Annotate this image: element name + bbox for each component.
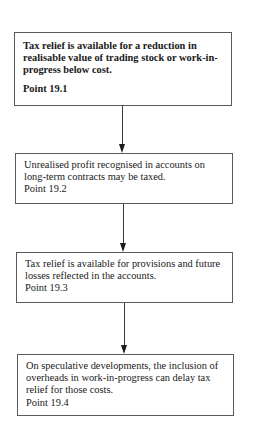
flow-step-2: Unrealised profit recognised in accounts…: [15, 153, 233, 204]
flow-step-1: Tax relief is available for a reduction …: [14, 32, 232, 106]
step-text: Unrealised profit recognised in accounts…: [24, 159, 205, 182]
step-point-reference: Point 19.4: [26, 397, 227, 409]
connector-line: [122, 106, 123, 144]
step-text: Tax relief is available for provisions a…: [25, 258, 220, 281]
step-text: On speculative developments, the inclusi…: [26, 360, 218, 395]
connector-line: [123, 204, 124, 243]
step-point-reference: Point 19.1: [23, 83, 225, 95]
step-text: Tax relief is available for a reduction …: [23, 40, 218, 75]
flow-step-4: On speculative developments, the inclusi…: [17, 354, 234, 416]
step-point-reference: Point 19.3: [25, 282, 226, 294]
flow-step-3: Tax relief is available for provisions a…: [16, 252, 233, 303]
arrow-down-icon: [119, 144, 125, 153]
arrow-down-icon: [120, 243, 126, 252]
connector-line: [124, 303, 125, 345]
arrow-down-icon: [121, 345, 127, 354]
step-point-reference: Point 19.2: [24, 183, 226, 195]
